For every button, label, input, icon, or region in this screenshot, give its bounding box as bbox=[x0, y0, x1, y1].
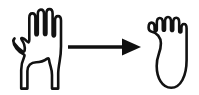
diagram-canvas: Hand transforms into foot hand transform… bbox=[0, 0, 199, 95]
hand-to-foot-diagram bbox=[0, 0, 199, 95]
